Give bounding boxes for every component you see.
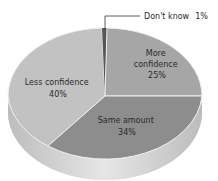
label-dont-know: Don't know1%	[144, 12, 208, 21]
pie-chart: Don't know1% More confidence 25% Less co…	[0, 0, 218, 181]
dont-know-leader	[105, 16, 140, 29]
